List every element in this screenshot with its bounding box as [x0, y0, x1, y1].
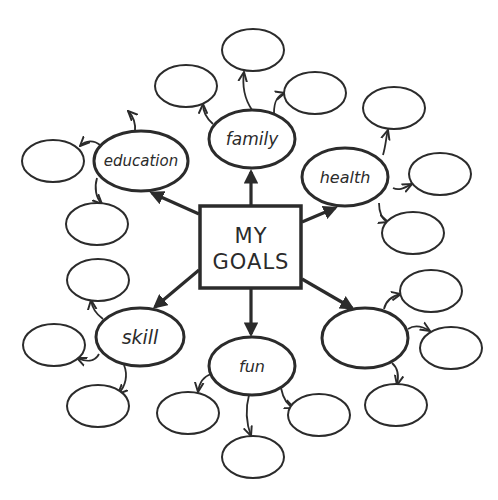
branch-health[interactable]: health — [302, 148, 388, 206]
connector-fun-1 — [198, 374, 211, 392]
branch-unlabeled[interactable] — [322, 308, 408, 368]
arrow-to-skill — [155, 270, 199, 307]
connector-education-3 — [96, 178, 102, 204]
fun-sub-oval-1[interactable] — [157, 392, 219, 434]
health-sub-oval-1[interactable] — [363, 87, 425, 129]
connector-unlabeled-2 — [408, 327, 430, 331]
arrow-to-unlabeled — [302, 279, 352, 308]
branch-fun[interactable]: fun — [209, 337, 295, 395]
center-title-line1: MY — [235, 224, 268, 248]
arrow-to-health — [302, 208, 335, 222]
unlabeled-sub-oval-2[interactable] — [420, 327, 482, 369]
education-label: education — [104, 152, 178, 170]
health-sub-oval-2[interactable] — [409, 153, 471, 195]
education-sub-oval-2[interactable] — [22, 140, 84, 182]
unlabeled-oval[interactable] — [322, 308, 408, 368]
connector-health-2 — [393, 184, 412, 189]
health-sub-oval-3[interactable] — [382, 212, 444, 254]
branch-education[interactable]: education — [94, 131, 188, 191]
connector-education-1 — [128, 111, 135, 132]
family-label: family — [226, 129, 279, 149]
center-title-line2: GOALS — [213, 250, 290, 274]
connector-family-3 — [203, 104, 213, 124]
connector-fun-2 — [247, 395, 251, 436]
unlabeled-sub-oval-3[interactable] — [365, 384, 427, 426]
skill-sub-oval-2[interactable] — [23, 324, 85, 366]
education-sub-oval-3[interactable] — [66, 203, 128, 245]
connector-education-2 — [80, 141, 100, 146]
mind-map-diagram: family education health fun skill MY GOA… — [0, 0, 498, 500]
family-sub-oval-2[interactable] — [284, 72, 346, 114]
branch-family[interactable]: family — [209, 110, 295, 168]
branch-skill[interactable]: skill — [96, 308, 184, 366]
arrow-to-education — [152, 193, 199, 214]
connector-health-1 — [383, 130, 388, 155]
center-node[interactable]: MY GOALS — [200, 206, 301, 288]
unlabeled-sub-oval-1[interactable] — [400, 270, 462, 312]
skill-sub-oval-3[interactable] — [67, 385, 129, 427]
connector-unlabeled-3 — [392, 363, 398, 385]
health-label: health — [320, 168, 371, 187]
fun-label: fun — [239, 357, 265, 376]
family-sub-oval-1[interactable] — [222, 29, 284, 71]
skill-label: skill — [122, 326, 159, 348]
connector-unlabeled-1 — [384, 294, 401, 309]
connector-health-3 — [379, 203, 388, 222]
education-sub-oval-1[interactable] — [155, 65, 217, 107]
connector-skill-1 — [91, 300, 103, 319]
skill-sub-oval-1[interactable] — [67, 259, 129, 301]
fun-sub-oval-2[interactable] — [222, 436, 284, 478]
fun-sub-oval-3[interactable] — [288, 394, 350, 436]
connector-family-1 — [243, 72, 252, 110]
